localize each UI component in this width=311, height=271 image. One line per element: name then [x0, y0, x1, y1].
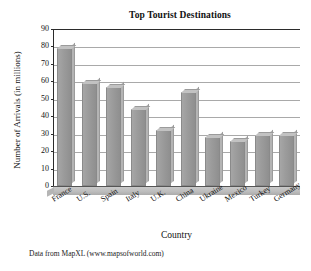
y-tick-label: 10: [27, 165, 49, 173]
bar-front-face: [181, 92, 196, 186]
y-tick-label: 80: [27, 42, 49, 50]
y-tick-label: 50: [27, 95, 49, 103]
y-tick-label: 90: [27, 25, 49, 33]
bar-front-face: [82, 83, 97, 186]
bar: [131, 109, 146, 186]
y-tick-label: 40: [27, 112, 49, 120]
y-tick-label: 70: [27, 60, 49, 68]
y-tick-label: 20: [27, 147, 49, 155]
x-axis-title: Country: [53, 230, 300, 240]
bar-front-face: [279, 135, 294, 186]
y-axis-title: Number of Arrivals (in millions): [12, 35, 22, 185]
bar-front-face: [230, 141, 245, 186]
x-tick-label: Italy: [124, 188, 141, 203]
source-note: Data from MapXL (www.mapsofworld.com): [29, 249, 164, 258]
bar: [156, 130, 171, 186]
bar-chart: Top Tourist Destinations Number of Arriv…: [0, 0, 311, 271]
bar-front-face: [255, 135, 270, 186]
y-tick-label: 0: [27, 182, 49, 190]
bar: [205, 137, 220, 186]
bar: [82, 83, 97, 186]
bar: [255, 135, 270, 186]
y-tick-label: 60: [27, 77, 49, 85]
bar-front-face: [131, 109, 146, 186]
bar: [279, 135, 294, 186]
bar: [181, 92, 196, 186]
y-axis-ticks: 9080706050403020100: [26, 29, 51, 186]
bar-front-face: [156, 130, 171, 186]
bar: [106, 87, 121, 186]
x-tick-label: U.S.: [75, 188, 92, 203]
bar-series: [53, 29, 300, 186]
y-tick-label: 30: [27, 130, 49, 138]
bar: [57, 48, 72, 186]
bar-front-face: [106, 87, 121, 186]
x-tick-label: U.K.: [149, 188, 167, 204]
bar: [230, 141, 245, 186]
bar-front-face: [57, 48, 72, 186]
bar-front-face: [205, 137, 220, 186]
x-axis-labels: FranceU.S.SpainItalyU.K.ChinaUkraineMexi…: [53, 190, 303, 230]
chart-title: Top Tourist Destinations: [60, 10, 300, 20]
